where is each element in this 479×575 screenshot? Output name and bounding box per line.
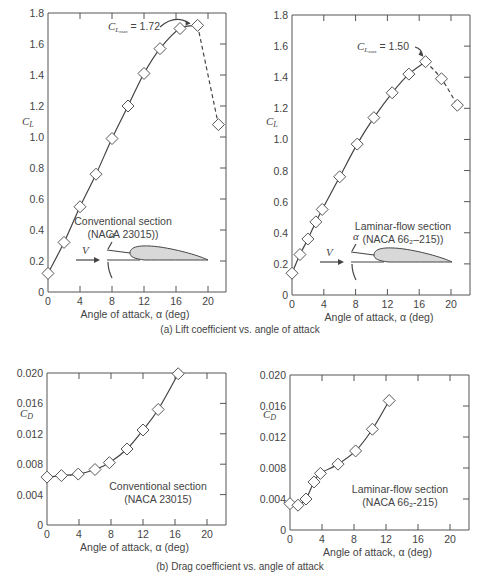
y-tick-label: 0.6 [29,193,44,205]
y-tick-label: 0.2 [273,258,288,270]
x-tick-label: 20 [201,528,213,540]
data-point-marker [334,171,346,183]
y-tick-label: 0.008 [260,462,286,474]
data-point-marker [72,468,84,480]
annotation-arrow [160,19,190,27]
y-axis-label: CL [266,115,278,129]
x-tick-label: 12 [380,533,392,545]
y-tick-label: 0.8 [29,162,44,174]
section-label: Laminar-flow section [355,220,451,232]
data-point-marker [316,203,328,215]
y-tick-label: 0.012 [17,428,43,440]
data-point-marker [174,23,186,35]
y-tick-label: 0.008 [17,458,43,470]
data-point-marker [55,470,67,482]
x-tick-label: 0 [287,533,293,545]
caption-lift: (a) Lift coefficient vs. angle of attack [160,324,320,335]
section-label: Laminar-flow section [352,483,448,495]
data-point-marker [451,99,463,111]
velocity-label: V [82,244,90,256]
x-axis-label: Angle of attack, α (deg) [80,541,189,553]
data-point-marker [89,464,101,476]
data-point-marker [192,19,204,31]
data-point-marker [138,67,150,79]
y-tick-label: 1.4 [273,71,288,83]
data-curve-dashed [198,25,219,124]
x-tick-label: 4 [319,533,325,545]
clmax-annotation: CLmax = 1.72 [108,20,160,34]
velocity-label: V [326,246,334,258]
data-point-marker [332,458,344,470]
clmax-annotation: CLmax = 1.50 [357,40,409,54]
chart-drag_conventional: 04812162000.0040.0080.0120.0160.020Angle… [17,367,226,553]
y-tick-label: 0.020 [260,369,286,381]
x-tick-label: 0 [45,295,51,307]
data-point-marker [106,133,118,145]
y-tick-label: 0.004 [260,493,286,505]
x-axis-label: Angle of attack, α (deg) [325,311,434,323]
data-point-marker [137,424,149,436]
y-tick-label: 0 [282,289,288,301]
data-point-marker [103,457,115,469]
y-tick-label: 0.020 [17,367,43,379]
x-tick-label: 20 [202,295,214,307]
y-tick-label: 0.012 [260,431,286,443]
y-tick-label: 0.004 [17,489,43,501]
y-tick-label: 0.8 [273,165,288,177]
airfoil-shape [374,248,452,262]
data-point-marker [310,216,322,228]
chart-lift_laminar: 04812162000.20.40.60.81.01.21.41.61.8Ang… [266,9,470,323]
data-point-marker [212,119,224,131]
x-tick-label: 0 [289,298,295,310]
data-point-marker [90,168,102,180]
x-tick-label: 4 [77,295,83,307]
data-point-marker [172,368,184,380]
data-point-marker [368,112,380,124]
y-tick-label: 1.2 [273,102,288,114]
x-tick-label: 4 [321,298,327,310]
x-tick-label: 12 [382,298,394,310]
y-tick-label: 1.2 [29,100,44,112]
x-tick-label: 20 [445,298,457,310]
x-tick-label: 8 [351,533,357,545]
data-point-marker [383,395,395,407]
y-tick-label: 1.6 [29,38,44,50]
alpha-label: α [109,228,115,240]
section-designation: (NACA 66₂–215)) [362,233,443,245]
x-tick-label: 8 [353,298,359,310]
alpha-label: α [353,230,359,242]
x-tick-label: 4 [76,528,82,540]
data-point-marker [435,73,447,85]
y-tick-label: 0.4 [29,224,44,236]
y-tick-label: 1.0 [273,133,288,145]
arrow-icon [338,259,344,265]
y-tick-label: 1.8 [273,9,288,21]
data-point-marker [302,233,314,245]
x-tick-label: 12 [137,528,149,540]
chart-drag_laminar: 04812162000.0040.0080.0120.0160.020Angle… [260,369,469,558]
y-tick-label: 0.6 [273,196,288,208]
x-axis-label: Angle of attack, α (deg) [81,308,190,320]
data-point-marker [74,201,86,213]
caption-drag: (b) Drag coefficient vs. angle of attack [156,561,325,572]
section-designation: (NACA 23015) [124,493,192,505]
section-designation: (NACA 23015)) [87,228,158,240]
x-tick-label: 16 [413,298,425,310]
y-tick-label: 0 [280,524,286,536]
data-point-marker [420,56,432,68]
x-tick-label: 8 [109,295,115,307]
data-point-marker [351,138,363,150]
data-point-marker [152,403,164,415]
x-tick-label: 0 [44,528,50,540]
y-tick-label: 0.2 [29,255,44,267]
data-point-marker [122,100,134,112]
section-label: Conventional section [74,215,172,227]
x-tick-label: 16 [169,528,181,540]
y-tick-label: 1.4 [29,69,44,81]
figure-canvas: 04812162000.20.40.60.81.01.21.41.61.8Ang… [0,0,479,575]
arrow-icon [94,257,100,263]
x-tick-label: 8 [108,528,114,540]
x-axis-label: Angle of attack, α (deg) [323,546,432,558]
data-point-marker [58,236,70,248]
y-tick-label: 0 [38,286,44,298]
